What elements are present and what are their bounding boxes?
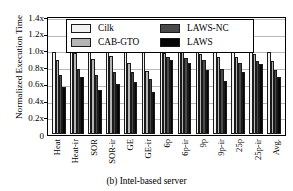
bar-laws-25p-ir	[259, 64, 262, 134]
y-axis-tick-label: 1.4x	[8, 14, 44, 23]
x-axis-tick: 25p-ir	[249, 137, 267, 175]
legend-swatch-cilk	[71, 24, 91, 33]
x-axis-tick: GE	[121, 137, 139, 175]
y-axis-tick-label: 0.4x	[8, 97, 44, 106]
x-axis-tick-label: Heat-ir	[71, 139, 80, 163]
x-axis-tick-label: GE-ir	[144, 139, 153, 159]
x-axis-tick: 9p-ir	[212, 137, 230, 175]
x-axis-tick-label: 25p-ir	[253, 139, 262, 160]
x-axis-tick: 25p	[230, 137, 248, 175]
x-axis-tick: 6p	[157, 137, 175, 175]
bar-laws-6p-ir	[188, 63, 191, 134]
x-axis-tick-label: 25p	[235, 139, 244, 152]
legend-swatch-laws-nc	[160, 24, 180, 33]
legend-item-cab-gto: CAB-GTO	[71, 38, 160, 47]
legend-item-cilk: Cilk	[71, 24, 160, 33]
legend-label-laws-nc: LAWS-NC	[187, 24, 229, 33]
y-axis-tick-label: 1.2x	[8, 30, 44, 39]
x-axis-tick-label: 9p	[199, 139, 208, 148]
x-axis-tick: 6p-ir	[176, 137, 194, 175]
bar-group	[51, 19, 67, 134]
y-axis-tick-label: 0.8x	[8, 64, 44, 73]
x-axis-tick: Avg.	[267, 137, 285, 175]
legend-item-laws-nc: LAWS-NC	[160, 24, 249, 33]
x-axis-tick-label: Heat	[53, 139, 62, 155]
legend-item-laws: LAWS	[160, 38, 249, 47]
bar-laws-sor-ir	[116, 84, 119, 134]
chart-legend: Cilk LAWS-NC CAB-GTO LAWS	[66, 19, 254, 53]
y-axis-tick-label: 0.6x	[8, 80, 44, 89]
bar-laws-heat-ir	[80, 77, 83, 134]
bar-laws-6p	[170, 60, 173, 134]
x-axis-tick: SOR	[84, 137, 102, 175]
x-axis-tick-label: 9p-ir	[217, 139, 226, 156]
x-axis-tick: SOR-ir	[103, 137, 121, 175]
x-axis-tick: 9p	[194, 137, 212, 175]
legend-label-cilk: Cilk	[98, 24, 114, 33]
x-axis-tick: Heat	[48, 137, 66, 175]
x-axis-tick-label: SOR-ir	[108, 139, 117, 164]
y-axis-tick-label: 1.0x	[8, 47, 44, 56]
bar-laws-25p	[242, 72, 245, 134]
bar-laws-9p	[206, 70, 209, 134]
y-axis-tick-label: 0.2x	[8, 114, 44, 123]
bar-laws-ge-ir	[152, 92, 155, 134]
x-axis-tick-label: GE	[126, 139, 135, 150]
legend-label-cab-gto: CAB-GTO	[98, 38, 139, 47]
x-axis-tick: Heat-ir	[66, 137, 84, 175]
y-axis-zero-label: 0	[8, 131, 44, 141]
figure-caption: (b) Intel-based server	[0, 176, 293, 186]
chart-figure: Normalized Execution Time 1.4x1.2x1.0x0.…	[0, 0, 293, 191]
bar-laws-heat	[62, 87, 65, 134]
x-axis-tick: GE-ir	[139, 137, 157, 175]
legend-row: Cilk LAWS-NC	[71, 22, 249, 36]
x-axis-tick-labels: HeatHeat-irSORSOR-irGEGE-ir6p6p-ir9p9p-i…	[48, 137, 285, 175]
bar-laws-9p-ir	[224, 81, 227, 134]
bar-laws-avg-	[277, 77, 280, 135]
bar-group	[266, 19, 282, 134]
bar-laws-ge	[134, 82, 137, 134]
x-axis-tick-label: Avg.	[272, 139, 281, 155]
x-axis-tick-label: SOR	[89, 139, 98, 156]
legend-row: CAB-GTO LAWS	[71, 36, 249, 50]
bar-laws-sor	[98, 90, 101, 134]
legend-swatch-laws	[160, 38, 180, 47]
x-axis-tick-label: 6p	[162, 139, 171, 148]
x-axis-tick-label: 6p-ir	[180, 139, 189, 156]
legend-swatch-cab-gto	[71, 38, 91, 47]
legend-label-laws: LAWS	[187, 38, 213, 47]
